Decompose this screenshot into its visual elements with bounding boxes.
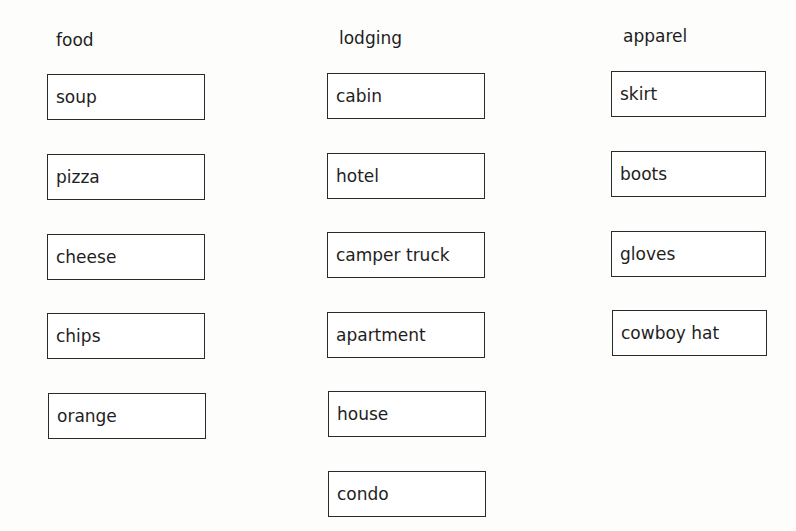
column-header-apparel: apparel xyxy=(623,26,687,46)
item-box: house xyxy=(328,391,486,437)
column-header-lodging: lodging xyxy=(339,28,402,48)
item-box: hotel xyxy=(327,153,485,199)
item-box: chips xyxy=(47,313,205,359)
item-box: camper truck xyxy=(327,232,485,278)
item-box: skirt xyxy=(611,71,766,117)
item-box: cowboy hat xyxy=(612,310,767,356)
item-box: soup xyxy=(47,74,205,120)
column-header-food: food xyxy=(56,30,94,50)
item-box: cheese xyxy=(47,234,205,280)
item-box: condo xyxy=(328,471,486,517)
item-box: pizza xyxy=(47,154,205,200)
item-box: cabin xyxy=(327,73,485,119)
item-box: gloves xyxy=(611,231,766,277)
item-box: boots xyxy=(611,151,766,197)
item-box: orange xyxy=(48,393,206,439)
item-box: apartment xyxy=(327,312,485,358)
